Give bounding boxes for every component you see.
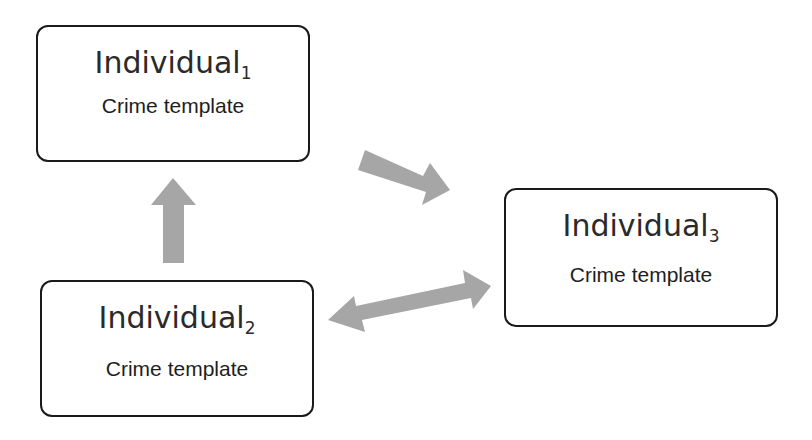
arrow-up-icon (151, 178, 196, 263)
arrow-diagonal-icon (358, 150, 450, 205)
node-label: Crime template (42, 357, 312, 381)
node-individual-3: Individual3 Crime template (504, 188, 778, 327)
node-title: Individual1 (38, 48, 308, 78)
node-label: Crime template (506, 263, 776, 287)
node-title: Individual2 (42, 303, 312, 333)
node-individual-1: Individual1 Crime template (36, 25, 310, 162)
node-individual-2: Individual2 Crime template (40, 280, 314, 417)
node-label: Crime template (38, 94, 308, 118)
node-title: Individual3 (506, 211, 776, 241)
double-arrow-icon (328, 270, 491, 332)
